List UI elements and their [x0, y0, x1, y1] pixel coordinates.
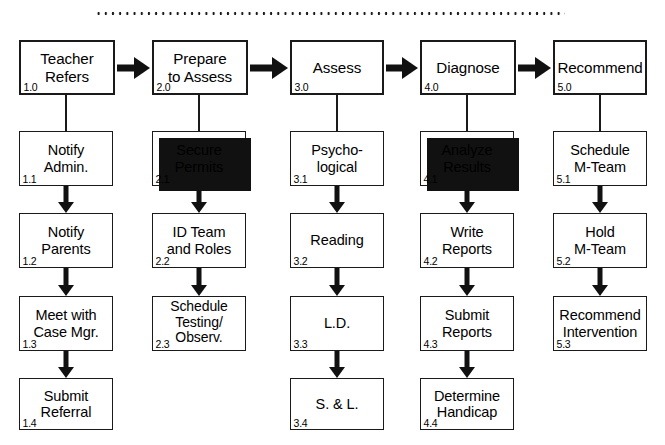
arrow-stem [117, 64, 135, 71]
node-label: Analyze Results [439, 142, 496, 175]
node-label: Recommend [554, 59, 645, 77]
node-number: 2.3 [156, 339, 170, 350]
step-box-2-2[interactable]: ID Team and Roles2.2 [152, 213, 246, 268]
phase-box-1-0[interactable]: Teacher Refers1.0 [19, 40, 115, 95]
connector-header-3-0 [336, 95, 338, 131]
step-box-4-1[interactable]: Analyze Results4.1 [420, 131, 514, 186]
step-arrow-1-2-to-1-3 [57, 268, 75, 296]
node-label: Submit Reports [439, 307, 495, 340]
arrow-stem [518, 64, 536, 71]
arrow-stem [64, 268, 69, 286]
node-label: Recommend Intervention [556, 307, 643, 340]
arrow-stem [465, 351, 470, 368]
step-box-5-3[interactable]: Recommend Intervention5.3 [553, 296, 647, 351]
arrow-stem [250, 64, 273, 71]
arrowhead-down-icon [459, 285, 475, 296]
arrowhead-down-icon [329, 285, 345, 296]
arrowhead-down-icon [58, 367, 74, 378]
node-number: 4.3 [424, 339, 438, 350]
node-number: 3.3 [294, 339, 308, 350]
step-box-1-1[interactable]: Notify Admin.1.1 [19, 131, 113, 186]
step-box-1-2[interactable]: Notify Parents1.2 [19, 213, 113, 268]
top-dotted-divider [95, 12, 565, 15]
node-number: 5.0 [558, 82, 572, 93]
step-box-3-2[interactable]: Reading3.2 [290, 213, 384, 268]
arrow-stem [598, 186, 603, 203]
node-label: Hold M-Team [571, 224, 629, 257]
node-label: Notify Parents [38, 224, 93, 257]
step-box-4-2[interactable]: Write Reports4.2 [420, 213, 514, 268]
node-label: Teacher Refers [37, 50, 96, 85]
step-arrow-2-2-to-2-3 [190, 268, 208, 296]
step-arrow-4-2-to-4-3 [458, 268, 476, 296]
step-box-3-3[interactable]: L.D.3.3 [290, 296, 384, 351]
arrowhead-right-icon [402, 57, 418, 79]
node-label: Schedule Testing/ Observ. [167, 299, 231, 346]
arrowhead-down-icon [592, 285, 608, 296]
node-number: 4.1 [424, 174, 438, 185]
arrowhead-right-icon [272, 57, 288, 79]
node-number: 4.4 [424, 418, 438, 429]
phase-box-5-0[interactable]: Recommend5.0 [553, 40, 647, 95]
node-label: Write Reports [439, 224, 495, 257]
node-label: Prepare to Assess [165, 50, 235, 85]
node-number: 1.3 [23, 339, 37, 350]
step-box-4-3[interactable]: Submit Reports4.3 [420, 296, 514, 351]
arrow-stem [335, 268, 340, 286]
connector-header-5-0 [599, 95, 601, 131]
arrowhead-down-icon [58, 202, 74, 213]
arrowhead-down-icon [459, 202, 475, 213]
step-box-3-4[interactable]: S. & L.3.4 [290, 378, 384, 430]
node-label: Determine Handicap [431, 388, 503, 421]
node-number: 4.0 [425, 82, 439, 93]
node-number: 2.2 [156, 256, 170, 267]
node-number: 2.1 [156, 174, 170, 185]
step-arrow-1-3-to-1-4 [57, 351, 75, 378]
node-label: Diagnose [433, 59, 502, 77]
step-box-1-4[interactable]: Submit Referral1.4 [19, 378, 113, 430]
arrowhead-down-icon [58, 285, 74, 296]
step-arrow-5-2-to-5-3 [591, 268, 609, 296]
phase-box-4-0[interactable]: Diagnose4.0 [420, 40, 516, 95]
node-number: 3.0 [295, 82, 309, 93]
phase-box-2-0[interactable]: Prepare to Assess2.0 [152, 40, 248, 95]
node-number: 2.0 [157, 82, 171, 93]
node-number: 1.2 [23, 256, 37, 267]
step-arrow-4-3-to-4-4 [458, 351, 476, 378]
step-arrow-1-1-to-1-2 [57, 186, 75, 213]
arrow-stem [335, 351, 340, 368]
arrow-stem [598, 268, 603, 286]
node-number: 3.4 [294, 418, 308, 429]
node-label: Meet with Case Mgr. [30, 307, 101, 340]
step-box-5-2[interactable]: Hold M-Team5.2 [553, 213, 647, 268]
step-box-4-4[interactable]: Determine Handicap4.4 [420, 378, 514, 430]
node-label: L.D. [321, 315, 353, 332]
node-label: Secure Permits [172, 142, 226, 175]
step-box-1-3[interactable]: Meet with Case Mgr.1.3 [19, 296, 113, 351]
step-box-3-1[interactable]: Psycho- logical3.1 [290, 131, 384, 186]
node-label: Submit Referral [38, 388, 95, 421]
node-number: 5.1 [557, 174, 571, 185]
step-box-2-3[interactable]: Schedule Testing/ Observ.2.3 [152, 296, 246, 351]
phase-box-3-0[interactable]: Assess3.0 [290, 40, 384, 95]
arrow-stem [197, 268, 202, 286]
arrow-stem [64, 186, 69, 203]
phase-arrow-3-to-4 [386, 57, 418, 79]
node-label: S. & L. [313, 396, 362, 413]
step-box-2-1[interactable]: Secure Permits2.1 [152, 131, 246, 186]
node-number: 3.2 [294, 256, 308, 267]
step-arrow-3-1-to-3-2 [328, 186, 346, 213]
node-number: 5.3 [557, 339, 571, 350]
arrowhead-down-icon [459, 367, 475, 378]
node-number: 1.0 [24, 82, 38, 93]
node-label: Schedule M-Team [567, 142, 633, 175]
step-arrow-3-2-to-3-3 [328, 268, 346, 296]
node-label: Assess [310, 59, 364, 77]
flowchart-canvas: Teacher Refers1.0Notify Admin.1.1Notify … [0, 0, 665, 445]
arrowhead-right-icon [535, 57, 551, 79]
node-label: Psycho- logical [308, 142, 366, 175]
arrow-stem [64, 351, 69, 368]
node-number: 3.1 [294, 174, 308, 185]
step-box-5-1[interactable]: Schedule M-Team5.1 [553, 131, 647, 186]
node-label: ID Team and Roles [164, 224, 234, 257]
